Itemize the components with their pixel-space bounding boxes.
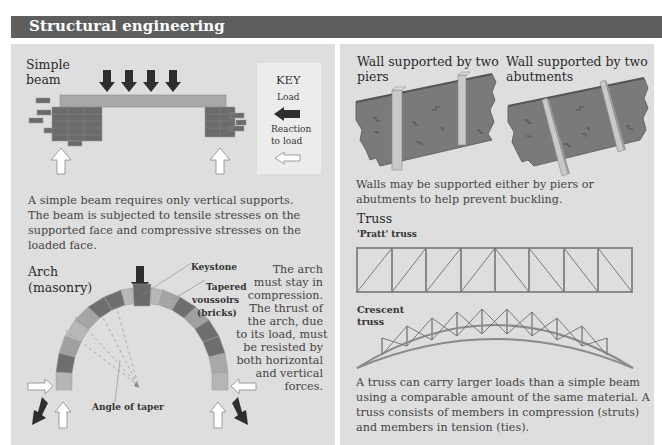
key-reaction-label-1: Reaction <box>271 124 311 134</box>
keystone-label: Keystone <box>191 262 237 272</box>
truss-title: Truss <box>357 211 392 227</box>
wall-abutments-diagram <box>506 74 656 179</box>
crescent-truss-diagram <box>355 302 640 372</box>
angle-of-taper-label: Angle of taper <box>92 402 164 412</box>
simple-beam-diagram <box>20 70 255 190</box>
arch-description: The arch must stay in compression. The t… <box>236 263 323 393</box>
voussoirs-label-2: voussoirs <box>192 295 239 305</box>
section-header: Structural engineering <box>11 16 662 38</box>
key-reaction-label-2: to load <box>271 136 302 146</box>
voussoirs-label-3: (bricks) <box>197 308 237 318</box>
reaction-arrows-icon <box>51 148 230 174</box>
pratt-truss-label: 'Pratt' truss <box>357 229 417 239</box>
wall-piers-diagram <box>352 70 502 175</box>
piers-title-1: Wall supported by two <box>357 54 499 70</box>
page-title: Structural engineering <box>29 17 225 35</box>
load-arrows-icon <box>99 70 181 92</box>
key-title: KEY <box>276 73 301 87</box>
reaction-arrow-icon <box>274 151 302 165</box>
key-load-label: Load <box>277 92 300 102</box>
load-arrow-icon <box>274 107 302 121</box>
pratt-truss-diagram <box>355 246 635 296</box>
abutments-title-1: Wall supported by two <box>506 54 648 70</box>
